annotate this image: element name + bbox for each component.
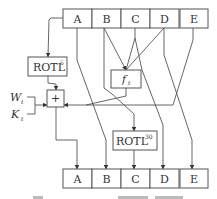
rotl30-block: ROTL 30: [113, 131, 157, 150]
input-e-label: E: [190, 13, 198, 26]
input-d: D: [150, 9, 179, 28]
caption-remnant: [33, 196, 183, 199]
output-d: D: [150, 169, 179, 188]
output-e-label: E: [190, 173, 198, 186]
output-d-label: D: [160, 173, 169, 186]
k-subscript: t: [21, 115, 24, 122]
input-c-label: C: [131, 13, 139, 26]
wire-rotl5-to-adder: [48, 76, 56, 90]
wire-adder-to-a-out: [56, 107, 77, 169]
wire-a-to-rotl5: [48, 18, 63, 57]
rotl5-block: ROTL 5: [28, 57, 67, 76]
f-block: f t: [111, 70, 141, 88]
wire-d-to-e-out: [164, 28, 192, 169]
w-subscript: t: [21, 98, 24, 105]
input-a: A: [63, 9, 92, 28]
output-b-label: B: [102, 173, 110, 186]
adder-block: +: [47, 90, 64, 107]
w-input: W t: [10, 91, 24, 105]
rotl30-exponent: 30: [145, 133, 153, 140]
input-e: E: [180, 9, 208, 28]
sha1-round-diagram: A B C D E ROTL 5 f t + W t K t: [0, 0, 217, 199]
output-c-label: C: [131, 173, 139, 186]
input-a-label: A: [73, 13, 83, 26]
rotl30-label: ROTL: [116, 135, 149, 148]
output-a: A: [63, 169, 92, 188]
wire-a-to-b-out: [77, 28, 106, 169]
k-input: K t: [10, 108, 24, 122]
output-a-label: A: [73, 173, 83, 186]
rotl5-exponent: 5: [60, 59, 64, 66]
output-e: E: [180, 169, 208, 188]
wire-e-to-adder: [64, 28, 193, 105]
input-d-label: D: [160, 13, 169, 26]
input-b: B: [92, 9, 121, 28]
adder-label: +: [51, 92, 60, 105]
input-c: C: [121, 9, 150, 28]
output-b: B: [92, 169, 121, 188]
input-b-label: B: [102, 13, 110, 26]
wire-b-to-f: [104, 28, 126, 70]
k-label: K: [10, 108, 20, 121]
output-c: C: [121, 169, 150, 188]
wire-wt: [27, 97, 35, 114]
